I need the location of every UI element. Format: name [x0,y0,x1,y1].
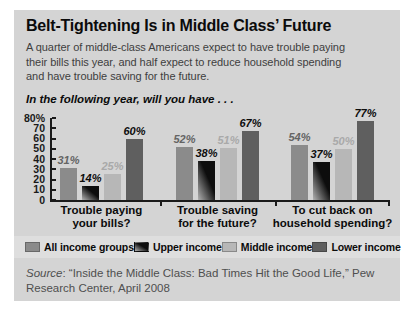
bar-lower-income: 60% [126,139,143,201]
bar-value-label: 50% [332,135,354,147]
source-text: : “Inside the Middle Class: Bad Times Hi… [26,267,374,294]
bar-lower-income: 67% [242,131,259,200]
bar-middle-income: 51% [220,148,237,200]
legend-item-middle-income: Middle income [222,241,313,253]
bar-value-label: 25% [101,160,123,172]
y-axis-tick [52,148,56,150]
bar-value-label: 52% [173,133,195,145]
bar-value-label: 38% [195,147,217,159]
source-note: Source: “Inside the Middle Class: Bad Ti… [26,266,398,295]
y-axis-tick [52,158,56,160]
bar-all-income-groups: 31% [60,168,77,200]
y-axis-tick [52,179,56,181]
y-axis-tick [52,138,56,140]
infographic-panel: Belt-Tightening Is in Middle Class’ Futu… [14,10,400,301]
bar-group: 52%38%51%67% [176,118,259,200]
bar-value-label: 31% [57,154,79,166]
x-axis-line [50,200,390,202]
chart-legend: All income groupsUpper incomeMiddle inco… [14,236,400,258]
bar-upper-income: 38% [198,161,215,200]
legend-swatch-lower-income [312,242,327,252]
category-label: To cut back on household spending? [258,204,408,230]
y-axis-tick [52,127,56,129]
source-label: Source [26,267,62,279]
legend-item-upper-income: Upper income [134,241,222,253]
legend-label: Lower income [331,241,400,253]
y-axis-tick [52,117,56,119]
legend-label: Upper income [153,241,222,253]
bar-all-income-groups: 54% [291,145,308,200]
legend-swatch-middle-income [222,242,237,252]
legend-swatch-upper-income [134,242,149,252]
bar-value-label: 14% [79,172,101,184]
legend-item-lower-income: Lower income [312,241,400,253]
bar-upper-income: 37% [313,162,330,200]
bar-middle-income: 25% [104,174,121,200]
bar-group: 31%14%25%60% [60,118,143,200]
bar-value-label: 37% [310,148,332,160]
legend-item-all-income-groups: All income groups [25,241,134,253]
bar-value-label: 77% [354,107,376,119]
bar-group: 54%37%50%77% [291,118,374,200]
bar-all-income-groups: 52% [176,147,193,200]
legend-swatch-all-income-groups [25,242,40,252]
bar-lower-income: 77% [357,121,374,200]
y-axis-tick [52,168,56,170]
bar-middle-income: 50% [335,149,352,200]
bar-value-label: 54% [288,131,310,143]
bar-upper-income: 14% [82,186,99,200]
bar-value-label: 51% [217,134,239,146]
y-axis-tick [52,199,56,201]
bar-value-label: 67% [239,117,261,129]
bar-value-label: 60% [123,125,145,137]
y-axis-tick [52,189,56,191]
legend-label: Middle income [241,241,313,253]
legend-label: All income groups [44,241,134,253]
